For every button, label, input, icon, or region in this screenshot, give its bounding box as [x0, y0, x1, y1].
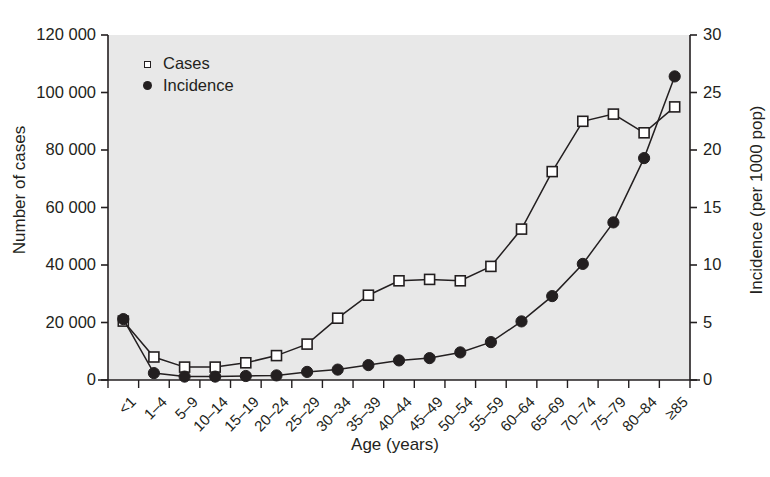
data-point-incidence [363, 360, 374, 371]
data-point-incidence [118, 314, 129, 325]
legend-label-cases: Cases [163, 54, 210, 73]
data-point-cases [608, 109, 618, 119]
data-point-cases [578, 116, 588, 126]
filled-circle-icon [138, 76, 156, 94]
data-point-cases [302, 339, 312, 349]
chart-figure: Number of cases Incidence (per 1000 pop)… [0, 0, 770, 477]
data-point-incidence [302, 366, 313, 377]
data-point-incidence [639, 153, 650, 164]
data-point-incidence [179, 371, 190, 382]
data-point-incidence [210, 371, 221, 382]
data-point-incidence [669, 71, 680, 82]
data-point-incidence [455, 347, 466, 358]
data-point-incidence [577, 258, 588, 269]
data-point-cases [363, 290, 373, 300]
legend-item-cases: Cases [138, 52, 234, 74]
data-point-incidence [332, 364, 343, 375]
data-point-incidence [547, 291, 558, 302]
data-point-incidence [485, 337, 496, 348]
data-point-cases [639, 128, 649, 138]
data-point-incidence [148, 368, 159, 379]
data-point-incidence [271, 370, 282, 381]
data-point-incidence [516, 316, 527, 327]
data-point-cases [241, 358, 251, 368]
data-point-cases [547, 167, 557, 177]
data-point-cases [486, 261, 496, 271]
data-point-incidence [608, 217, 619, 228]
legend-item-incidence: Incidence [138, 74, 234, 96]
data-point-cases [394, 276, 404, 286]
data-point-cases [149, 352, 159, 362]
data-point-incidence [240, 370, 251, 381]
data-point-incidence [424, 353, 435, 364]
chart-legend: Cases Incidence [138, 52, 234, 96]
plot-area [0, 0, 770, 477]
data-point-cases [455, 276, 465, 286]
data-point-cases [272, 351, 282, 361]
legend-label-incidence: Incidence [163, 76, 234, 95]
data-point-cases [670, 102, 680, 112]
data-point-cases [425, 274, 435, 284]
data-point-cases [333, 313, 343, 323]
data-point-cases [517, 224, 527, 234]
open-square-icon [138, 54, 156, 72]
data-point-incidence [393, 355, 404, 366]
